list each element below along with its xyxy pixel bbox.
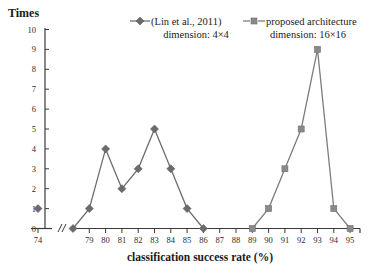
x-tick-label: 90 bbox=[264, 235, 273, 245]
data-point-94 bbox=[331, 206, 337, 212]
x-tick-label: 91 bbox=[281, 235, 290, 245]
x-tick-label: 79 bbox=[85, 235, 94, 245]
series-b-markers bbox=[249, 46, 353, 231]
y-tick-label: 9 bbox=[32, 44, 36, 54]
y-tick-group: 0 1 2 3 4 5 6 7 8 9 10 bbox=[28, 25, 50, 234]
x-tick-label: 88 bbox=[232, 235, 241, 245]
data-point-90 bbox=[266, 206, 272, 212]
data-point-84 bbox=[167, 165, 175, 173]
y-tick-label: 8 bbox=[32, 64, 36, 74]
x-tick-label: 87 bbox=[215, 235, 224, 245]
y-tick-label: 3 bbox=[32, 164, 36, 174]
y-tick-label: 10 bbox=[28, 25, 37, 35]
y-tick-label: 2 bbox=[32, 184, 36, 194]
x-tick-label: 92 bbox=[297, 235, 306, 245]
y-tick-label: 4 bbox=[32, 144, 37, 154]
x-tick-label: 93 bbox=[313, 235, 322, 245]
chart-canvas: Times 0 1 2 3 4 5 6 7 8 9 bbox=[0, 0, 381, 268]
data-point-89 bbox=[249, 226, 255, 232]
chart-figure: Times 0 1 2 3 4 5 6 7 8 9 bbox=[0, 0, 381, 268]
x-tick-label-group: 74 79 80 81 82 83 84 85 86 87 88 89 90 9… bbox=[34, 235, 355, 245]
x-tick-label: 86 bbox=[199, 235, 208, 245]
data-point-95 bbox=[347, 226, 353, 232]
legend-marker-series-b bbox=[243, 18, 265, 24]
x-tick-label: 82 bbox=[134, 235, 143, 245]
data-point-93 bbox=[315, 46, 321, 52]
legend-sublabel-series-a: dimension: 4×4 bbox=[163, 29, 229, 40]
y-tick-label: 7 bbox=[32, 84, 36, 94]
data-point-80 bbox=[102, 145, 110, 153]
x-tick-label: 80 bbox=[101, 235, 110, 245]
x-tick-group bbox=[89, 229, 350, 234]
data-point-92 bbox=[298, 126, 304, 132]
series-a-line bbox=[73, 129, 203, 229]
x-tick-label: 89 bbox=[248, 235, 257, 245]
x-tick-label: 95 bbox=[346, 235, 355, 245]
axis-break-icon bbox=[58, 224, 66, 232]
x-tick-label: 94 bbox=[330, 235, 339, 245]
x-tick-label: 83 bbox=[150, 235, 159, 245]
x-tick-label: 85 bbox=[183, 235, 192, 245]
y-tick-label: 5 bbox=[32, 124, 36, 134]
y-axis-title: Times bbox=[8, 6, 39, 20]
x-axis-title: classification success rate (%) bbox=[127, 251, 273, 264]
series-b-line bbox=[252, 49, 350, 228]
data-point-83 bbox=[151, 125, 159, 133]
x-tick-label: 81 bbox=[118, 235, 127, 245]
x-tick-label: 84 bbox=[167, 235, 176, 245]
y-tick-label: 6 bbox=[32, 104, 36, 114]
x-tick-label: 74 bbox=[34, 235, 43, 245]
legend: (Lin et al., 2011) dimension: 4×4 propos… bbox=[130, 16, 357, 40]
legend-marker-series-a bbox=[130, 17, 150, 25]
legend-label-series-a: (Lin et al., 2011) bbox=[151, 16, 222, 28]
series-a-markers bbox=[34, 125, 207, 233]
legend-label-series-b: proposed architecture bbox=[266, 16, 357, 27]
data-point-91 bbox=[282, 166, 288, 172]
legend-sublabel-series-b: dimension: 16×16 bbox=[270, 29, 346, 40]
